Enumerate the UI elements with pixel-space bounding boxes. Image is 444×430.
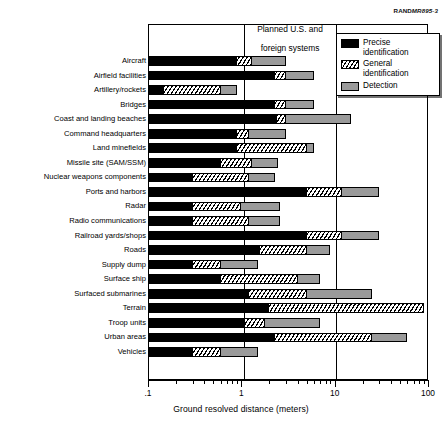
bar-segment-precise [148, 289, 249, 299]
stacked-bar [148, 100, 428, 110]
bar-row: Coast and landing beaches [0, 112, 444, 127]
bar-row: Railroad yards/shops [0, 229, 444, 244]
x-axis-line [148, 380, 428, 381]
stacked-bar [148, 260, 428, 270]
bar-row: Roads [0, 243, 444, 258]
tick-minor [419, 380, 420, 384]
source-code: MR895-3 [412, 7, 438, 14]
bar-segment-general [193, 173, 249, 183]
category-label: Supply dump [0, 259, 146, 270]
bar-segment-general [221, 274, 298, 284]
tick-minor [330, 380, 331, 384]
stacked-bar [148, 347, 428, 357]
tick-minor [414, 380, 415, 384]
bar-segment-general [237, 143, 307, 153]
category-label: Missile site (SAM/SSM) [0, 157, 146, 168]
category-label: Surfaced submarines [0, 288, 146, 299]
stacked-bar [148, 333, 428, 343]
bar-segment-detection [342, 187, 379, 197]
stacked-bar [148, 114, 428, 124]
stacked-bar [148, 173, 428, 183]
chart-root: RANDMR895-3 Planned U.S. and foreign sys… [0, 0, 444, 430]
stacked-bar [148, 216, 428, 226]
tick-minor [298, 380, 299, 384]
stacked-bar [148, 303, 428, 313]
tick-minor [221, 380, 222, 384]
bar-segment-precise [148, 187, 307, 197]
bar-segment-precise [148, 56, 237, 66]
bar-row: Command headquarters [0, 127, 444, 142]
stacked-bar [148, 158, 428, 168]
tick-label: 100 [421, 388, 435, 398]
tick-major [428, 380, 429, 387]
tick-label: 1 [239, 388, 244, 398]
bar-segment-detection [249, 129, 286, 139]
category-label: Command headquarters [0, 128, 146, 139]
category-label: Nuclear weapons components [0, 171, 146, 182]
bar-rows: AircraftAirfield facilitiesArtillery/roc… [0, 54, 444, 359]
chart-legend: Precise identificationGeneral identifica… [336, 33, 440, 96]
tick-minor [286, 380, 287, 384]
tick-minor [379, 380, 380, 384]
legend-item-detection: Detection [341, 81, 435, 91]
bar-segment-detection [249, 216, 280, 226]
category-label: Troop units [0, 317, 146, 328]
tick-minor [213, 380, 214, 384]
legend-label-detection: Detection [363, 81, 398, 91]
tick-minor [176, 380, 177, 384]
category-label: Roads [0, 244, 146, 255]
bar-segment-general [277, 114, 286, 124]
stacked-bar [148, 129, 428, 139]
bar-segment-general [269, 303, 423, 313]
bar-segment-detection [286, 71, 314, 81]
bar-segment-general [307, 231, 342, 241]
tick-minor [320, 380, 321, 384]
tick-minor [314, 380, 315, 384]
category-label: Vehicles [0, 346, 146, 357]
category-label: Aircraft [0, 55, 146, 66]
tick-minor [237, 380, 238, 384]
category-label: Artillery/rockets [0, 84, 146, 95]
bar-row: Supply dump [0, 258, 444, 273]
tick-minor [391, 380, 392, 384]
stacked-bar [148, 187, 428, 197]
x-axis-title-text: Ground resolved distance (meters) [173, 404, 309, 414]
bar-segment-detection [241, 202, 280, 212]
tick-minor [269, 380, 270, 384]
bar-segment-precise [148, 274, 221, 284]
category-label: Urban areas [0, 331, 146, 342]
bar-segment-detection [221, 85, 237, 95]
legend-swatch-general-icon [341, 60, 359, 69]
legend-item-general: General identification [341, 59, 435, 78]
bar-segment-precise [148, 318, 245, 328]
bar-segment-general [307, 187, 342, 197]
tick-minor [400, 380, 401, 384]
bar-row: Vehicles [0, 345, 444, 360]
bar-segment-precise [148, 347, 193, 357]
category-label: Ports and harbors [0, 186, 146, 197]
bar-segment-detection [252, 56, 286, 66]
bar-segment-general [221, 158, 252, 168]
bar-row: Surface ship [0, 272, 444, 287]
legend-swatch-detection-icon [341, 82, 359, 91]
tick-minor [424, 380, 425, 384]
category-label: Coast and landing beaches [0, 113, 146, 124]
bar-segment-general [237, 56, 252, 66]
stacked-bar [148, 202, 428, 212]
bar-segment-precise [148, 231, 307, 241]
bar-segment-precise [148, 202, 193, 212]
tick-minor [193, 380, 194, 384]
bar-segment-detection [249, 173, 275, 183]
tick-major [335, 380, 336, 387]
legend-label-general: General identification [363, 59, 435, 78]
bar-row: Land minefields [0, 141, 444, 156]
bar-segment-detection [221, 260, 258, 270]
bar-row: Ports and harbors [0, 185, 444, 200]
bar-row: Radar [0, 199, 444, 214]
tick-major [241, 380, 242, 387]
legend-label-precise: Precise identification [363, 38, 435, 57]
bar-segment-precise [148, 303, 269, 313]
bar-segment-detection [286, 114, 351, 124]
stacked-bar [148, 245, 428, 255]
bar-segment-precise [148, 85, 164, 95]
